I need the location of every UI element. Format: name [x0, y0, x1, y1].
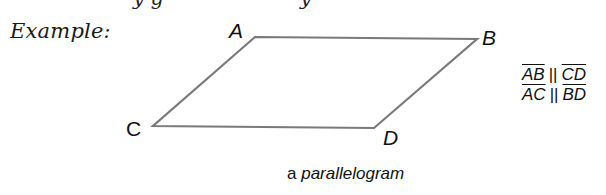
relation-ac-bd: AC||BD [522, 85, 586, 105]
vertex-label-b: B [482, 26, 496, 50]
segment-ab: AB [522, 65, 545, 84]
parallel-symbol: || [550, 85, 559, 104]
caption-term: parallelogram [301, 164, 404, 183]
segment-ac: AC [522, 85, 546, 104]
segment-cd: CD [562, 65, 587, 84]
relation-ab-cd: AB||CD [522, 65, 586, 85]
parallel-relations: AB||CD AC||BD [522, 65, 586, 105]
vertex-label-d: D [383, 126, 398, 150]
vertex-label-c: C [126, 117, 141, 141]
figure-caption: a parallelogram [287, 164, 404, 184]
parallel-symbol: || [549, 65, 558, 84]
segment-bd: BD [562, 85, 586, 104]
caption-article: a [287, 164, 296, 183]
parallelogram-shape [153, 37, 477, 128]
vertex-label-a: A [229, 19, 243, 43]
